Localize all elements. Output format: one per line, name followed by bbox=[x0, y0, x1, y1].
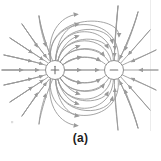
outer-line-left-down-1 bbox=[4, 75, 47, 86]
outer-line-left-up-2 bbox=[10, 38, 48, 63]
negative-charge bbox=[105, 61, 124, 80]
dipole-arc-upper-1 bbox=[64, 57, 106, 64]
outer-line-right-down-3 bbox=[119, 79, 138, 128]
scan-artifact bbox=[11, 121, 13, 123]
outer-line-right-down-4 bbox=[114, 80, 118, 130]
positive-charge bbox=[46, 61, 65, 80]
outer-line-right-up-4 bbox=[114, 6, 118, 60]
dipole-arc-lower-1 bbox=[64, 76, 106, 83]
dipole-arc-upper-2 bbox=[61, 46, 109, 62]
field-lines bbox=[2, 6, 158, 130]
dipole-arc-lower-2 bbox=[61, 79, 109, 95]
outer-line-right-up-3 bbox=[119, 12, 138, 61]
outer-line-left-up-1 bbox=[4, 55, 47, 66]
figure-caption: (a) bbox=[0, 131, 161, 145]
outer-line-left-down-2 bbox=[10, 78, 48, 103]
figure-container: (a) bbox=[0, 0, 161, 161]
